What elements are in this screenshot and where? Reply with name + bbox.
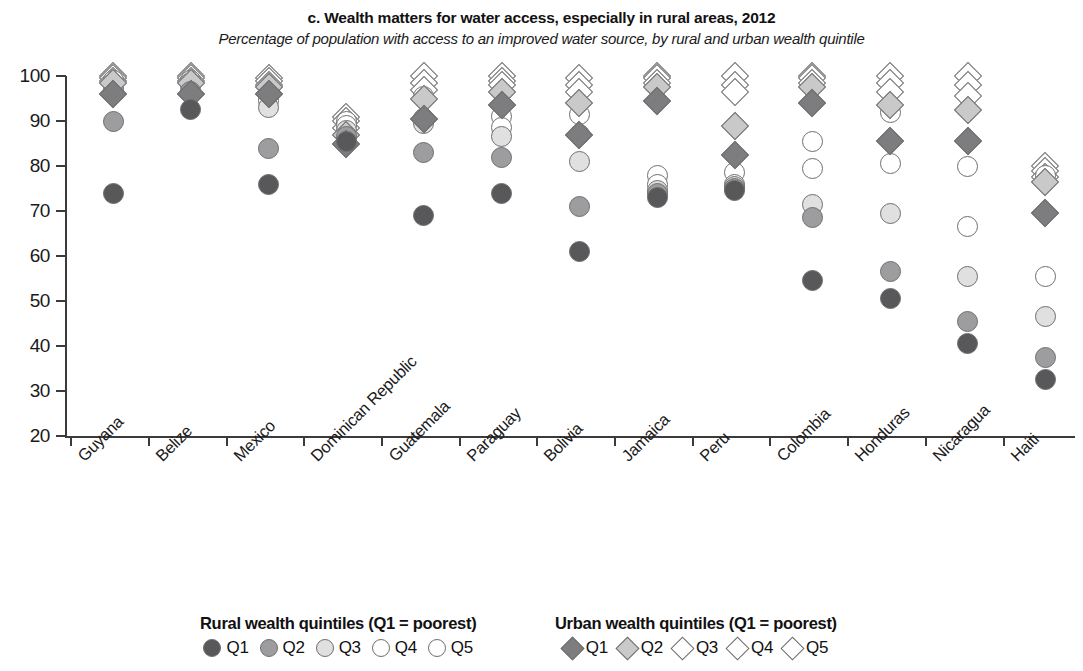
legend-item-label: Q1 xyxy=(226,639,248,657)
diamond-marker-icon xyxy=(725,636,749,660)
y-axis-label: 30 xyxy=(4,381,50,400)
data-point xyxy=(802,158,823,179)
plot-area xyxy=(65,76,1075,436)
x-axis-tick xyxy=(1003,437,1005,446)
circle-marker-icon xyxy=(372,639,390,657)
legend-group-rural: Rural wealth quintiles (Q1 = poorest) Q1… xyxy=(200,612,476,657)
legend-item-label: Q3 xyxy=(696,639,718,657)
data-point xyxy=(336,131,357,152)
data-point xyxy=(569,196,590,217)
legend-item-urban-q2[interactable]: Q2 xyxy=(619,639,663,657)
diamond-marker-icon xyxy=(670,636,694,660)
legend-group-urban: Urban wealth quintiles (Q1 = poorest) Q1… xyxy=(555,612,837,657)
data-point xyxy=(721,141,749,169)
data-point xyxy=(1035,306,1056,327)
legend-item-label: Q2 xyxy=(641,639,663,657)
legend-item-rural-q1[interactable]: Q1 xyxy=(203,639,248,657)
data-point xyxy=(876,127,904,155)
data-point xyxy=(957,266,978,287)
x-axis-tick xyxy=(925,437,927,446)
y-axis-label: 50 xyxy=(4,291,50,310)
data-point xyxy=(802,270,823,291)
data-point xyxy=(798,89,826,117)
legend-item-rural-q2[interactable]: Q2 xyxy=(260,639,305,657)
legend-item-urban-q3[interactable]: Q3 xyxy=(674,639,718,657)
legend-item-label: Q2 xyxy=(283,639,305,657)
data-point xyxy=(1035,266,1056,287)
data-point xyxy=(565,120,593,148)
x-axis-tick xyxy=(536,437,538,446)
x-axis-tick xyxy=(303,437,305,446)
legend-item-label: Q5 xyxy=(451,639,473,657)
data-point xyxy=(103,111,124,132)
chart-subtitle: Percentage of population with access to … xyxy=(0,28,1083,50)
x-axis-tick xyxy=(692,437,694,446)
data-point xyxy=(413,205,434,226)
legend-heading-urban: Urban wealth quintiles (Q1 = poorest) xyxy=(555,612,837,634)
x-axis-tick xyxy=(381,437,383,446)
legend-item-rural-q4[interactable]: Q4 xyxy=(372,639,417,657)
data-point xyxy=(957,216,978,237)
data-point xyxy=(1035,369,1056,390)
legend-item-label: Q4 xyxy=(395,639,417,657)
legend-item-urban-q5[interactable]: Q5 xyxy=(784,639,828,657)
data-point xyxy=(880,153,901,174)
legend-item-label: Q4 xyxy=(751,639,773,657)
data-point xyxy=(880,203,901,224)
y-axis-label: 100 xyxy=(4,66,50,85)
legend-item-urban-q4[interactable]: Q4 xyxy=(729,639,773,657)
x-axis-tick xyxy=(769,437,771,446)
legend-item-urban-q1[interactable]: Q1 xyxy=(564,639,608,657)
x-axis-tick xyxy=(847,437,849,446)
legend-heading-rural: Rural wealth quintiles (Q1 = poorest) xyxy=(200,612,476,634)
data-point xyxy=(180,99,201,120)
data-point xyxy=(491,126,512,147)
legend-items-rural: Q1Q2Q3Q4Q5 xyxy=(200,639,476,657)
data-point xyxy=(258,174,279,195)
diamond-marker-icon xyxy=(781,636,805,660)
x-axis-tick xyxy=(226,437,228,446)
legend-item-rural-q5[interactable]: Q5 xyxy=(428,639,473,657)
data-point xyxy=(569,151,590,172)
circle-marker-icon xyxy=(203,639,221,657)
data-point xyxy=(721,111,749,139)
data-point xyxy=(647,187,668,208)
circle-marker-icon xyxy=(428,639,446,657)
y-axis-label: 70 xyxy=(4,201,50,220)
x-axis-tick xyxy=(459,437,461,446)
circle-marker-icon xyxy=(260,639,278,657)
data-point xyxy=(491,183,512,204)
legend-items-urban: Q1Q2Q3Q4Q5 xyxy=(555,639,837,657)
data-point xyxy=(880,261,901,282)
data-point xyxy=(957,333,978,354)
legend-item-label: Q3 xyxy=(339,639,361,657)
data-point xyxy=(724,180,745,201)
data-point xyxy=(880,288,901,309)
diamond-marker-icon xyxy=(560,636,584,660)
circle-marker-icon xyxy=(316,639,334,657)
diamond-marker-icon xyxy=(615,636,639,660)
data-point xyxy=(957,156,978,177)
data-point xyxy=(1031,199,1059,227)
data-point xyxy=(491,147,512,168)
legend-item-rural-q3[interactable]: Q3 xyxy=(316,639,361,657)
figure-root: c. Wealth matters for water access, espe… xyxy=(0,0,1083,671)
data-point xyxy=(103,183,124,204)
chart-title: c. Wealth matters for water access, espe… xyxy=(0,8,1083,28)
x-axis-tick xyxy=(614,437,616,446)
y-axis-label: 60 xyxy=(4,246,50,265)
x-axis-tick xyxy=(70,437,72,446)
y-axis-label: 90 xyxy=(4,111,50,130)
legend: Rural wealth quintiles (Q1 = poorest) Q1… xyxy=(0,612,1083,671)
title-block: c. Wealth matters for water access, espe… xyxy=(0,8,1083,50)
legend-item-label: Q1 xyxy=(586,639,608,657)
y-axis-label: 40 xyxy=(4,336,50,355)
data-point xyxy=(802,131,823,152)
data-point xyxy=(413,142,434,163)
data-point xyxy=(802,207,823,228)
data-point xyxy=(957,311,978,332)
legend-item-label: Q5 xyxy=(806,639,828,657)
x-axis-tick xyxy=(148,437,150,446)
data-point xyxy=(569,241,590,262)
data-point xyxy=(954,127,982,155)
